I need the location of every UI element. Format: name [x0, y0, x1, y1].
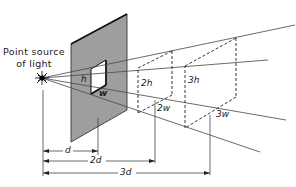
distance-2d-label: 2d — [90, 156, 101, 165]
source-label-line2: of light — [1, 59, 67, 69]
inverse-square-law-diagram — [0, 0, 296, 187]
box2-height-label: 2h — [141, 79, 152, 88]
point-source-icon — [35, 71, 49, 85]
distance-3d-label: 3d — [120, 168, 131, 177]
box2-width-label: 2w — [157, 104, 170, 113]
aperture-height-label: h — [81, 75, 87, 84]
distance-d-label: d — [65, 146, 71, 155]
source-label-line1: Point source — [1, 47, 67, 57]
box3-height-label: 3h — [188, 76, 199, 85]
aperture-width-label: w — [99, 89, 107, 98]
box3-width-label: 3w — [216, 110, 229, 119]
